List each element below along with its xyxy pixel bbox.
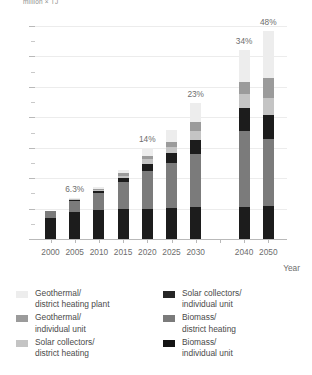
bar-segment — [166, 130, 177, 142]
bar-2000 — [45, 211, 56, 239]
x-tick-label-2020: 2020 — [138, 247, 156, 257]
bar-segment — [45, 218, 56, 239]
x-tick-mark-2030 — [196, 239, 197, 243]
bar-2025 — [166, 130, 177, 240]
x-tick-mark-2040 — [244, 239, 245, 243]
x-tick-label-2030: 2030 — [186, 247, 204, 257]
y-tick-mark-250 — [29, 87, 35, 88]
legend-swatch — [163, 291, 175, 298]
x-tick-mark-2025 — [172, 239, 173, 243]
x-tick-mark-2010 — [99, 239, 100, 243]
x-tick-mark-2000 — [51, 239, 52, 243]
bar-segment — [69, 201, 80, 212]
y-tick-mark-150 — [29, 148, 35, 149]
legend-label: Geothermal/ district heating plant — [35, 288, 110, 310]
x-tick-mark-2005 — [75, 239, 76, 243]
bar-2020 — [142, 148, 153, 239]
bar-segment — [190, 154, 201, 208]
x-axis-line — [35, 239, 287, 240]
bar-segment — [142, 164, 153, 171]
x-tick-mark-2020 — [147, 239, 148, 243]
bar-segment — [239, 50, 250, 82]
y-tick-mark-200 — [29, 117, 35, 118]
bar-segment — [263, 31, 274, 78]
x-tick-label-2015: 2015 — [114, 247, 132, 257]
legend-column-right: Solar collectors/ individual unitBiomass… — [163, 288, 242, 361]
bar-segment — [263, 78, 274, 97]
y-axis-unit-label: million × TJ — [23, 0, 58, 5]
bar-2040 — [239, 50, 250, 239]
legend-label: Biomass/ district heating — [182, 312, 236, 334]
legend-item[interactable]: Biomass/ individual unit — [163, 337, 242, 359]
bar-segment — [190, 122, 201, 131]
legend-label: Geothermal/ individual unit — [35, 312, 86, 334]
bar-segment — [239, 131, 250, 207]
plot-area: 0501001502002503003506.3%14%23%34%48% — [35, 26, 287, 239]
bar-segment — [142, 209, 153, 239]
bar-2005 — [69, 198, 80, 239]
legend-label: Solar collectors/ district heating — [35, 337, 95, 359]
y-tick-minor-225 — [31, 102, 35, 103]
bar-segment — [190, 103, 201, 122]
legend-item[interactable]: Solar collectors/ district heating — [16, 337, 110, 359]
y-tick-minor-275 — [31, 72, 35, 73]
legend-swatch — [163, 315, 175, 322]
bar-percentage-label-2020: 14% — [139, 134, 156, 144]
x-tick-mark-gap — [220, 239, 221, 243]
bar-2015 — [118, 170, 129, 239]
legend-swatch — [163, 340, 175, 347]
bar-percentage-label-2005: 6.3% — [65, 184, 84, 194]
legend-item[interactable]: Solar collectors/ individual unit — [163, 288, 242, 310]
bar-segment — [263, 115, 274, 139]
legend-swatch — [16, 315, 28, 322]
bar-segment — [69, 212, 80, 239]
legend-label: Solar collectors/ individual unit — [182, 288, 242, 310]
bar-segment — [239, 82, 250, 94]
legend-item[interactable]: Geothermal/ district heating plant — [16, 288, 110, 310]
x-tick-label-2000: 2000 — [41, 247, 59, 257]
bar-segment — [118, 209, 129, 239]
bar-segment — [142, 148, 153, 155]
legend-item[interactable]: Geothermal/ individual unit — [16, 312, 110, 334]
legend-column-left: Geothermal/ district heating plantGeothe… — [16, 288, 110, 361]
bar-segment — [166, 208, 177, 239]
legend-item[interactable]: Biomass/ district heating — [163, 312, 242, 334]
x-tick-label-2025: 2025 — [162, 247, 180, 257]
bar-2030 — [190, 103, 201, 239]
bar-percentage-label-2030: 23% — [187, 89, 204, 99]
bar-segment — [45, 211, 56, 218]
bar-segment — [263, 139, 274, 206]
bar-segment — [190, 207, 201, 239]
y-tick-minor-325 — [31, 41, 35, 42]
y-tick-minor-175 — [31, 133, 35, 134]
bar-segment — [142, 171, 153, 209]
y-tick-mark-50 — [29, 209, 35, 210]
legend-label: Biomass/ individual unit — [182, 337, 233, 359]
y-tick-minor-75 — [31, 193, 35, 194]
stacked-bar-chart: million × TJ 0501001502002503003506.3%14… — [0, 0, 312, 375]
x-tick-label-2010: 2010 — [90, 247, 108, 257]
bar-segment — [93, 210, 104, 239]
y-tick-minor-125 — [31, 163, 35, 164]
legend-swatch — [16, 291, 28, 298]
legend-swatch — [16, 340, 28, 347]
bar-segment — [239, 207, 250, 239]
x-tick-mark-2015 — [123, 239, 124, 243]
gridline-350 — [35, 26, 287, 27]
bar-percentage-label-2050: 48% — [260, 17, 277, 27]
y-tick-mark-300 — [29, 56, 35, 57]
bar-segment — [190, 140, 201, 153]
bar-segment — [239, 108, 250, 131]
x-tick-label-2050: 2050 — [259, 247, 277, 257]
bar-segment — [93, 193, 104, 210]
y-tick-mark-350 — [29, 26, 35, 27]
y-tick-minor-25 — [31, 224, 35, 225]
x-tick-label-2005: 2005 — [65, 247, 83, 257]
chart-legend: Geothermal/ district heating plantGeothe… — [0, 288, 312, 375]
x-axis-title: Year — [283, 263, 300, 273]
bar-segment — [118, 182, 129, 209]
bar-percentage-label-2040: 34% — [236, 36, 253, 46]
bar-segment — [166, 163, 177, 208]
x-tick-mark-2050 — [268, 239, 269, 243]
bar-segment — [166, 153, 177, 163]
